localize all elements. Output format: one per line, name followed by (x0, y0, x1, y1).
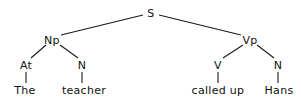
leaf-called-up: called up (192, 85, 245, 96)
node-vp: Vp (242, 35, 257, 46)
leaf-teacher: teacher (62, 85, 106, 96)
edge-s-np (61, 15, 143, 35)
node-at: At (20, 60, 32, 71)
node-n-object: N (274, 60, 283, 71)
edge-vp-v (223, 45, 243, 58)
leaf-the: The (14, 85, 35, 96)
node-v: V (214, 60, 222, 71)
edge-vp-n (257, 45, 274, 58)
edge-np-at (31, 45, 46, 58)
edge-np-n (60, 45, 78, 58)
leaf-hans: Hans (265, 85, 294, 96)
node-n-subject: N (78, 60, 87, 71)
edge-s-vp (159, 15, 241, 35)
node-np: Np (44, 35, 60, 46)
node-s: S (147, 8, 154, 19)
